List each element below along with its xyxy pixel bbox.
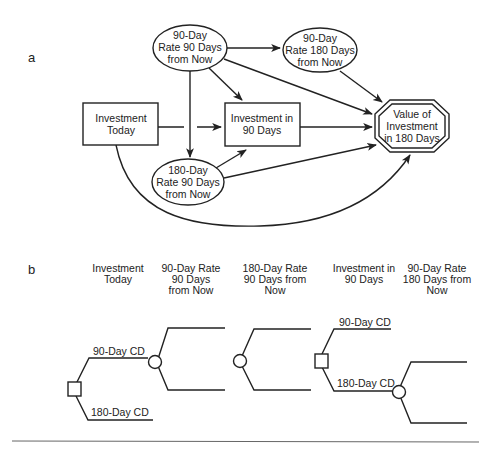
svg-text:Rate 180 Days: Rate 180 Days [285, 44, 354, 56]
header-investment-90: Investment in 90 Days [333, 262, 396, 285]
chance-circle-rate180-now90[interactable] [234, 355, 247, 368]
chance-tree-rate180-now90 [234, 329, 312, 390]
decision-node-investment-today[interactable]: Investment Today [83, 103, 158, 145]
svg-text:Today: Today [104, 273, 133, 285]
chance-branch-upper [400, 362, 467, 387]
decision-square-investment-today[interactable] [68, 382, 81, 396]
chance-branch-upper [242, 329, 311, 356]
header-rate90-now180: 90-Day Rate 180 Days from Now [403, 262, 472, 296]
svg-text:Now: Now [264, 284, 285, 296]
branch-90day-cd [76, 358, 148, 384]
arc-rate180now90-to-investment90 [216, 150, 246, 168]
chance-node-rate90-now180[interactable]: 90-Day Rate 180 Days from Now [283, 28, 357, 72]
svg-text:Today: Today [107, 124, 136, 136]
branch-label-180day-cd: 180-Day CD [91, 406, 149, 418]
arc-rate90now90-to-investment90 [209, 68, 242, 100]
header-investment-today: Investment Today [92, 262, 143, 285]
decision-node-investment-90[interactable]: Investment in 90 Days [225, 103, 300, 146]
header-rate180-now90: 180-Day Rate 90 Days from Now [243, 262, 308, 296]
chance-circle-rate90-now90[interactable] [149, 356, 162, 369]
svg-text:from Now: from Now [168, 53, 213, 65]
svg-text:180-Day: 180-Day [168, 164, 208, 176]
chance-branch-lower [158, 366, 225, 390]
chance-branch-lower [242, 366, 311, 390]
figure: a 90-Day Rate 90 Days from Now 90-Day Ra… [0, 0, 492, 453]
branch-label-180day-cd: 180-Day CD [337, 377, 395, 389]
svg-text:Investment: Investment [386, 120, 437, 132]
tree-headers: Investment Today 90-Day Rate 90 Days fro… [92, 262, 471, 296]
arc-rate90now180-to-value180 [340, 71, 382, 102]
header-rate90-now90: 90-Day Rate 90 Days from Now [162, 262, 221, 296]
arc-rate180now90-to-value180 [224, 145, 376, 178]
chance-branch-upper [158, 328, 225, 359]
branch-label-90day-cd: 90-Day CD [339, 316, 391, 328]
svg-text:Rate 90 Days: Rate 90 Days [156, 176, 220, 188]
svg-text:in 180 Days: in 180 Days [384, 132, 439, 144]
svg-text:from Now: from Now [169, 284, 214, 296]
decision-tree-1: 90-Day CD 180-Day CD [68, 328, 225, 420]
chance-circle-rate90-now180[interactable] [393, 386, 406, 399]
chance-node-rate90-now90[interactable]: 90-Day Rate 90 Days from Now [153, 25, 227, 71]
svg-text:Investment in: Investment in [231, 112, 294, 124]
decision-tree-2: 90-Day CD 180-Day CD [315, 316, 467, 423]
svg-text:Rate 90 Days: Rate 90 Days [158, 41, 222, 53]
svg-text:from Now: from Now [298, 56, 343, 68]
svg-text:90-Day: 90-Day [303, 32, 338, 44]
svg-text:from Now: from Now [166, 188, 211, 200]
svg-text:90 Days: 90 Days [345, 273, 384, 285]
svg-text:Value of: Value of [393, 108, 431, 120]
branch-label-90day-cd: 90-Day CD [93, 345, 145, 357]
svg-text:90-Day: 90-Day [173, 29, 208, 41]
value-node-investment-180[interactable]: Value of Investment in 180 Days [375, 100, 449, 152]
chance-node-rate180-now90[interactable]: 180-Day Rate 90 Days from Now [152, 159, 224, 205]
panel-b-label: b [28, 262, 35, 277]
svg-text:Now: Now [426, 284, 447, 296]
svg-text:90 Days: 90 Days [243, 124, 282, 136]
chance-branch-lower [400, 396, 467, 423]
panel-a-label: a [28, 50, 36, 65]
svg-text:Investment: Investment [95, 112, 146, 124]
divider-line [12, 441, 479, 442]
branch-90day-cd [322, 329, 391, 354]
decision-square-investment-90[interactable] [315, 354, 328, 368]
